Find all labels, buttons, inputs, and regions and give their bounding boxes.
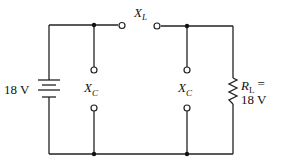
circuit-diagram: 18 V XL XC XC RL= 18 V — [0, 0, 283, 167]
terminals — [91, 23, 190, 112]
resistor-icon — [229, 78, 237, 104]
xl-terminal-left — [119, 23, 125, 29]
junction-dot — [92, 23, 96, 27]
xc2-terminal-bottom — [184, 105, 190, 111]
xc1-label: XC — [83, 80, 99, 98]
junction-dot — [185, 152, 189, 156]
junction-dot — [185, 24, 189, 28]
xl-label: XL — [133, 5, 147, 22]
rl-value-label: 18 V — [241, 92, 267, 107]
xl-terminal-right — [154, 23, 160, 29]
source-voltage-label: 18 V — [4, 82, 30, 97]
battery-icon — [38, 80, 60, 97]
junction-dots — [92, 23, 189, 156]
xc1-terminal-top — [91, 67, 97, 73]
xc2-label: XC — [177, 80, 193, 98]
junction-dot — [92, 152, 96, 156]
xc2-terminal-top — [184, 67, 190, 73]
xc1-terminal-bottom — [91, 105, 97, 111]
wires — [49, 25, 233, 154]
